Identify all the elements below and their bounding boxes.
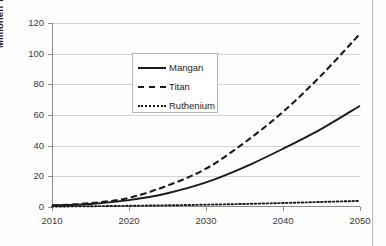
x-tick-label: 2040: [260, 215, 306, 226]
x-tick-label: 2010: [29, 215, 75, 226]
y-tick-label: 40: [0, 140, 44, 151]
y-tick-label: 100: [0, 48, 44, 59]
plot-area: Mangan Titan Ruthenium: [52, 23, 360, 207]
x-tick-mark: [129, 207, 130, 211]
legend-label-mangan: Mangan: [167, 62, 203, 73]
legend-item-mangan: Mangan: [137, 58, 214, 77]
chart-figure: Millionen Tonnen 020406080100120 2010202…: [0, 0, 386, 246]
legend-swatch-dotted-icon: [137, 101, 167, 111]
y-tick-label: 0: [0, 201, 44, 212]
x-tick-label: 2020: [106, 215, 152, 226]
x-tick-mark: [206, 207, 207, 211]
x-tick-mark: [52, 207, 53, 211]
legend-item-ruthenium: Ruthenium: [137, 96, 214, 115]
y-tick-label: 120: [0, 17, 44, 28]
x-tick-label: 2050: [337, 215, 383, 226]
x-tick-mark: [283, 207, 284, 211]
y-tick-label: 80: [0, 78, 44, 89]
legend-label-titan: Titan: [167, 81, 190, 92]
series-line-mangan: [52, 106, 360, 206]
y-tick-label: 20: [0, 170, 44, 181]
x-tick-mark: [360, 207, 361, 211]
legend-label-ruthenium: Ruthenium: [167, 100, 215, 111]
series-curves: [52, 23, 360, 207]
legend-swatch-dashed-icon: [137, 82, 167, 92]
y-tick-label: 60: [0, 109, 44, 120]
chart-legend: Mangan Titan Ruthenium: [132, 53, 218, 113]
legend-swatch-solid-icon: [137, 63, 167, 73]
page-right-rule: [372, 0, 373, 246]
legend-item-titan: Titan: [137, 77, 214, 96]
x-tick-label: 2030: [183, 215, 229, 226]
